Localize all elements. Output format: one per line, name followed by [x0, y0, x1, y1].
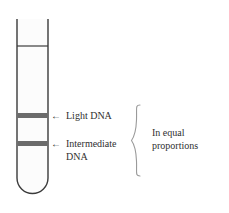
annotation-line1: In equal	[152, 127, 185, 139]
equal-proportions-brace	[132, 105, 141, 176]
label-light-dna: Light DNA	[66, 110, 112, 122]
annotation-line2: proportions	[152, 140, 198, 152]
tube-outline	[17, 19, 48, 194]
tube-figure	[0, 0, 229, 213]
label-intermediate-dna-line2: DNA	[66, 151, 88, 163]
band-light-dna	[18, 113, 48, 118]
band-intermediate-dna	[18, 141, 48, 146]
arrow-to-intermediate-band: ←	[51, 139, 61, 149]
dna-band-diagram: ← Light DNA ← Intermediate DNA In equal …	[0, 0, 229, 213]
arrow-to-light-band: ←	[51, 111, 61, 121]
label-intermediate-dna-line1: Intermediate	[66, 138, 117, 150]
